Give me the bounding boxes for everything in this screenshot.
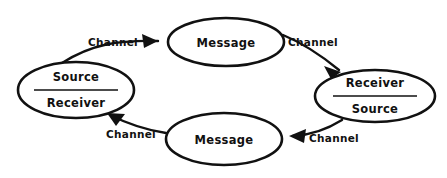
left-party-bottom-label: Receiver <box>47 96 106 110</box>
communication-cycle-diagram: Source Receiver Message Receiver Source … <box>0 0 447 178</box>
left-party-top-label: Source <box>53 70 99 84</box>
node-right-party: Receiver Source <box>315 70 435 122</box>
bottom-message-label: Message <box>195 133 254 147</box>
right-party-top-label: Receiver <box>346 76 405 90</box>
node-top-message: Message <box>168 18 284 66</box>
node-bottom-message: Message <box>166 113 282 165</box>
arrowhead-right-to-bottom <box>289 129 306 143</box>
edge-label-right-to-bottom: Channel <box>309 132 359 144</box>
edge-label-left-to-top: Channel <box>88 36 138 48</box>
right-party-bottom-label: Source <box>352 102 398 116</box>
node-left-party: Source Receiver <box>18 62 134 118</box>
edge-label-top-to-right: Channel <box>288 36 338 48</box>
top-message-label: Message <box>197 36 256 50</box>
edge-label-bottom-to-left: Channel <box>106 128 156 140</box>
arrowhead-left-to-top <box>142 34 158 48</box>
